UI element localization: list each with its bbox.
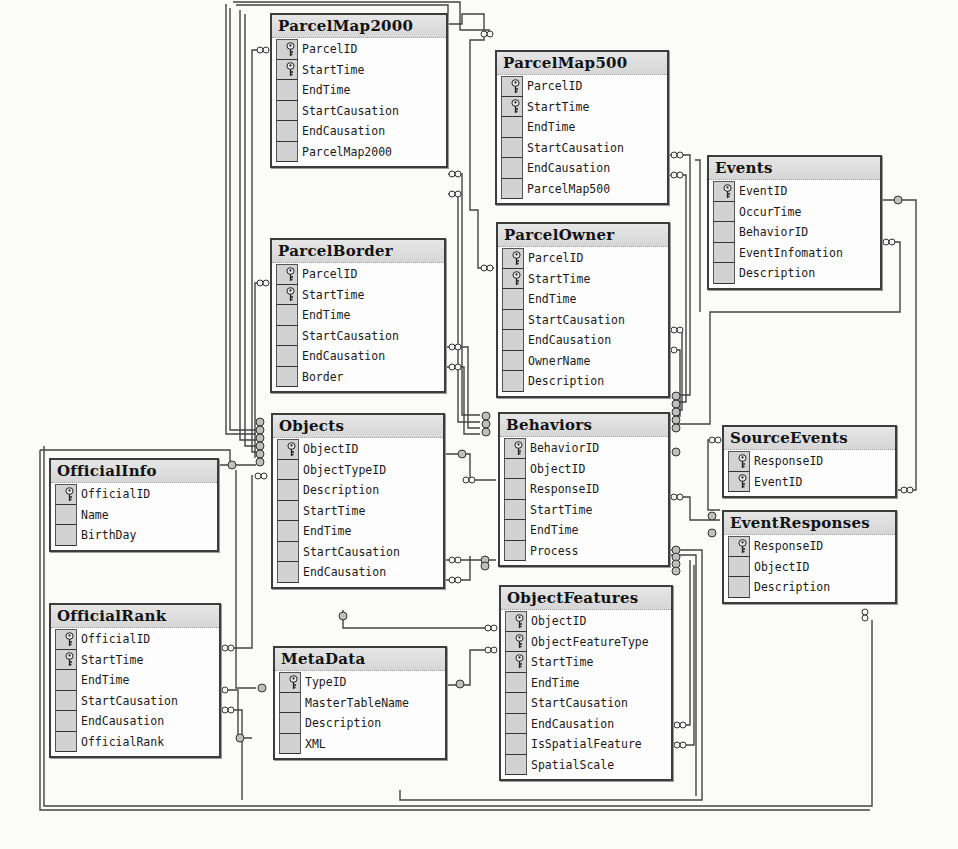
row-selector[interactable] <box>505 734 527 755</box>
row-selector[interactable] <box>277 521 299 542</box>
row-selector[interactable] <box>505 714 527 735</box>
column-row[interactable]: BehaviorID <box>713 222 876 243</box>
row-selector[interactable] <box>502 310 524 331</box>
row-selector[interactable] <box>505 693 527 714</box>
row-selector[interactable] <box>279 734 301 755</box>
row-selector[interactable] <box>276 142 298 163</box>
column-row[interactable]: StartTime <box>276 60 442 81</box>
column-row[interactable]: Description <box>502 371 664 392</box>
row-selector[interactable] <box>504 500 526 521</box>
row-selector[interactable] <box>502 289 524 310</box>
row-selector[interactable] <box>277 460 299 481</box>
primary-key-selector[interactable] <box>502 269 524 290</box>
primary-key-selector[interactable] <box>55 484 77 505</box>
row-selector[interactable] <box>728 577 750 598</box>
column-row[interactable]: ResponseID <box>504 479 664 500</box>
column-row[interactable]: StartCausation <box>276 101 442 122</box>
row-selector[interactable] <box>502 330 524 351</box>
row-selector[interactable] <box>505 673 527 694</box>
table-parcelborder[interactable]: ParcelBorder ParcelID StartTime EndTime … <box>270 238 446 393</box>
primary-key-selector[interactable] <box>501 76 523 97</box>
column-row[interactable]: OccurTime <box>713 202 876 223</box>
row-selector[interactable] <box>502 371 524 392</box>
table-metadata[interactable]: MetaData TypeID MasterTableName Descript… <box>273 646 447 760</box>
primary-key-selector[interactable] <box>504 438 526 459</box>
column-row[interactable]: EndCausation <box>276 346 440 367</box>
table-behaviors[interactable]: Behaviors BehaviorID ObjectID ResponseID… <box>498 412 670 567</box>
row-selector[interactable] <box>55 525 77 546</box>
column-row[interactable]: OfficialID <box>55 484 213 505</box>
column-row[interactable]: Border <box>276 367 440 388</box>
column-row[interactable]: BirthDay <box>55 525 213 546</box>
row-selector[interactable] <box>277 480 299 501</box>
column-row[interactable]: EndTime <box>55 670 215 691</box>
row-selector[interactable] <box>55 505 77 526</box>
column-row[interactable]: Name <box>55 505 213 526</box>
column-row[interactable]: StartCausation <box>501 138 663 159</box>
primary-key-selector[interactable] <box>276 60 298 81</box>
column-row[interactable]: ObjectFeatureType <box>505 632 667 653</box>
column-row[interactable]: StartCausation <box>505 693 667 714</box>
column-row[interactable]: StartCausation <box>502 310 664 331</box>
row-selector[interactable] <box>713 222 735 243</box>
row-selector[interactable] <box>276 121 298 142</box>
column-row[interactable]: SpatialScale <box>505 755 667 776</box>
primary-key-selector[interactable] <box>55 650 77 671</box>
row-selector[interactable] <box>501 117 523 138</box>
column-row[interactable]: OfficialRank <box>55 732 215 753</box>
column-row[interactable]: Description <box>279 713 441 734</box>
column-row[interactable]: EndCausation <box>277 562 439 583</box>
primary-key-selector[interactable] <box>277 439 299 460</box>
table-officialrank[interactable]: OfficialRank OfficialID StartTime EndTim… <box>49 603 221 758</box>
column-row[interactable]: EndTime <box>504 520 664 541</box>
column-row[interactable]: OwnerName <box>502 351 664 372</box>
column-row[interactable]: ParcelID <box>276 264 440 285</box>
column-row[interactable]: StartTime <box>502 269 664 290</box>
column-row[interactable]: BehaviorID <box>504 438 664 459</box>
primary-key-selector[interactable] <box>728 536 750 557</box>
column-row[interactable]: Description <box>713 263 876 284</box>
column-row[interactable]: ObjectTypeID <box>277 460 439 481</box>
row-selector[interactable] <box>276 346 298 367</box>
column-row[interactable]: ObjectID <box>505 611 667 632</box>
table-parcelmap500[interactable]: ParcelMap500 ParcelID StartTime EndTime … <box>495 50 669 205</box>
row-selector[interactable] <box>501 158 523 179</box>
row-selector[interactable] <box>504 459 526 480</box>
row-selector[interactable] <box>277 542 299 563</box>
table-events[interactable]: Events EventID OccurTime BehaviorID Even… <box>707 155 882 290</box>
column-row[interactable]: Description <box>277 480 439 501</box>
row-selector[interactable] <box>501 179 523 200</box>
column-row[interactable]: OfficialID <box>55 629 215 650</box>
row-selector[interactable] <box>504 479 526 500</box>
primary-key-selector[interactable] <box>728 451 750 472</box>
column-row[interactable]: StartTime <box>55 650 215 671</box>
table-eventresponses[interactable]: EventResponses ResponseID ObjectID Descr… <box>722 510 897 604</box>
column-row[interactable]: EventInfomation <box>713 243 876 264</box>
row-selector[interactable] <box>276 80 298 101</box>
column-row[interactable]: StartTime <box>277 501 439 522</box>
row-selector[interactable] <box>505 755 527 776</box>
column-row[interactable]: ParcelID <box>276 39 442 60</box>
column-row[interactable]: ObjectID <box>504 459 664 480</box>
column-row[interactable]: XML <box>279 734 441 755</box>
row-selector[interactable] <box>277 562 299 583</box>
primary-key-selector[interactable] <box>505 652 527 673</box>
row-selector[interactable] <box>276 326 298 347</box>
primary-key-selector[interactable] <box>728 472 750 493</box>
row-selector[interactable] <box>55 670 77 691</box>
row-selector[interactable] <box>55 691 77 712</box>
primary-key-selector[interactable] <box>505 632 527 653</box>
row-selector[interactable] <box>502 351 524 372</box>
table-objectfeatures[interactable]: ObjectFeatures ObjectID ObjectFeatureTyp… <box>499 585 673 781</box>
table-objects[interactable]: Objects ObjectID ObjectTypeID Descriptio… <box>271 413 445 589</box>
row-selector[interactable] <box>504 520 526 541</box>
primary-key-selector[interactable] <box>505 611 527 632</box>
primary-key-selector[interactable] <box>502 248 524 269</box>
column-row[interactable]: EndCausation <box>501 158 663 179</box>
primary-key-selector[interactable] <box>276 264 298 285</box>
column-row[interactable]: ParcelMap500 <box>501 179 663 200</box>
column-row[interactable]: EndCausation <box>502 330 664 351</box>
row-selector[interactable] <box>728 557 750 578</box>
column-row[interactable]: EventID <box>713 181 876 202</box>
column-row[interactable]: StartTime <box>504 500 664 521</box>
